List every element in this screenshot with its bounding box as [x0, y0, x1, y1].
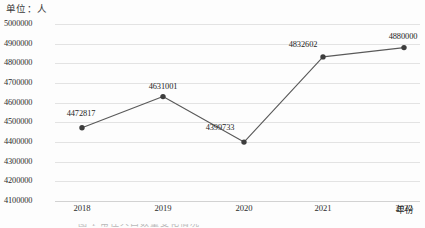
- figure-caption-cropped: 图 1 常住人口数量变化情况: [0, 224, 425, 228]
- figure-caption-text: 图 1 常住人口数量变化情况: [78, 224, 200, 228]
- plot-area: 44728174631001439973348326024880000: [55, 24, 420, 201]
- x-axis-tick-label: 2021: [314, 203, 331, 213]
- data-point-marker: [79, 125, 84, 130]
- y-axis-tick-label: 5000000: [4, 19, 50, 28]
- y-axis-tick-label: 4100000: [4, 196, 50, 205]
- series-line: [82, 48, 404, 143]
- y-axis-tick-label: 4900000: [4, 39, 50, 48]
- data-point-label: 4880000: [389, 32, 418, 41]
- x-axis-tick-label: 2020: [235, 203, 252, 213]
- data-point-label: 4399733: [206, 123, 235, 132]
- y-axis-tick-label: 4700000: [4, 78, 50, 87]
- y-axis-unit-label: 单位：人: [6, 1, 47, 15]
- data-point-marker: [401, 45, 406, 50]
- y-axis-tick-label: 4300000: [4, 157, 50, 166]
- x-axis-title: 年份: [396, 203, 414, 215]
- gridline: [55, 201, 420, 202]
- y-axis-tick-label: 4500000: [4, 117, 50, 126]
- y-axis-tick-label: 4800000: [4, 58, 50, 67]
- y-axis-tick-label: 4600000: [4, 98, 50, 107]
- line-series: [55, 24, 420, 201]
- y-axis-tick-label: 4200000: [4, 176, 50, 185]
- data-point-marker: [320, 54, 325, 59]
- chart-figure: 单位：人 50000004900000480000047000004600000…: [0, 0, 425, 228]
- data-point-label: 4832602: [289, 40, 318, 49]
- data-point-marker: [160, 94, 165, 99]
- x-axis-tick-label: 2019: [154, 203, 171, 213]
- data-point-label: 4631001: [149, 82, 178, 91]
- y-axis-tick-label: 4400000: [4, 137, 50, 146]
- data-point-label: 4472817: [67, 109, 96, 118]
- data-point-marker: [241, 139, 246, 144]
- x-axis-tick-label: 2018: [73, 203, 90, 213]
